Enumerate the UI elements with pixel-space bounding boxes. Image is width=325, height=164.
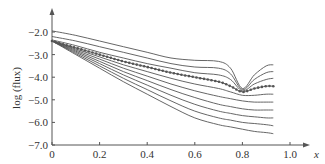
data-marker bbox=[98, 53, 101, 56]
data-marker bbox=[165, 70, 168, 73]
y-tick-label: −3.0 bbox=[28, 49, 48, 61]
data-marker bbox=[109, 57, 112, 60]
x-tick-label: 1.0 bbox=[283, 148, 297, 160]
data-marker bbox=[106, 56, 109, 59]
data-marker bbox=[135, 63, 138, 66]
data-marker bbox=[214, 80, 217, 83]
data-marker bbox=[95, 52, 98, 55]
data-marker bbox=[232, 86, 235, 89]
data-marker bbox=[225, 83, 228, 86]
data-marker bbox=[191, 76, 194, 79]
data-marker bbox=[121, 60, 124, 63]
y-tick-label: −4.0 bbox=[28, 71, 48, 83]
data-marker bbox=[139, 64, 142, 67]
data-marker bbox=[158, 69, 161, 72]
data-marker bbox=[102, 54, 105, 57]
data-marker bbox=[128, 62, 131, 65]
data-marker bbox=[268, 85, 271, 88]
y-tick-label: −2.0 bbox=[28, 26, 48, 38]
data-marker bbox=[161, 70, 164, 73]
data-marker bbox=[264, 85, 267, 88]
data-marker bbox=[210, 79, 213, 82]
data-marker bbox=[147, 66, 150, 69]
data-marker bbox=[235, 88, 238, 91]
y-tick-label: −7.0 bbox=[28, 139, 48, 151]
x-tick-label: 0.6 bbox=[188, 148, 202, 160]
data-marker bbox=[180, 73, 183, 76]
data-marker bbox=[143, 65, 146, 68]
data-marker bbox=[257, 86, 260, 89]
data-marker bbox=[203, 78, 206, 81]
data-marker bbox=[195, 76, 198, 79]
data-marker bbox=[242, 91, 245, 94]
data-marker bbox=[238, 90, 241, 93]
data-marker bbox=[132, 62, 135, 65]
data-marker bbox=[199, 77, 202, 80]
data-marker bbox=[249, 88, 252, 91]
y-ticks: −2.0−3.0−4.0−5.0−6.0−7.0 bbox=[28, 26, 55, 151]
curves-group bbox=[51, 31, 275, 134]
data-marker bbox=[228, 85, 231, 88]
x-axis-arrow-icon bbox=[303, 143, 310, 148]
data-marker bbox=[154, 68, 157, 71]
y-axis-arrow-icon bbox=[50, 8, 55, 15]
data-marker bbox=[246, 90, 249, 93]
x-tick-label: 0.8 bbox=[236, 148, 250, 160]
y-axis-label: log (flux) bbox=[10, 67, 23, 109]
data-marker bbox=[221, 82, 224, 85]
data-marker bbox=[91, 51, 94, 54]
data-marker bbox=[253, 87, 256, 90]
series-curve-3 bbox=[52, 40, 273, 91]
data-marker bbox=[218, 80, 221, 83]
data-marker bbox=[113, 58, 116, 61]
data-marker bbox=[150, 67, 153, 70]
data-marker bbox=[87, 50, 90, 53]
data-marker bbox=[176, 73, 179, 76]
x-axis-label: x bbox=[313, 148, 319, 160]
data-marker bbox=[117, 59, 120, 62]
x-tick-label: 0 bbox=[49, 148, 55, 160]
data-marker bbox=[261, 86, 264, 89]
data-marker bbox=[188, 75, 191, 78]
y-tick-label: −5.0 bbox=[28, 94, 48, 106]
data-marker bbox=[206, 78, 209, 81]
x-tick-label: 0.4 bbox=[140, 148, 154, 160]
data-marker bbox=[184, 74, 187, 77]
x-tick-label: 0.2 bbox=[93, 148, 107, 160]
chart: −2.0−3.0−4.0−5.0−6.0−7.0 00.20.40.60.81.… bbox=[0, 0, 325, 164]
data-marker bbox=[173, 72, 176, 75]
data-marker bbox=[272, 85, 275, 88]
y-tick-label: −6.0 bbox=[28, 116, 48, 128]
data-marker bbox=[124, 61, 127, 64]
data-marker bbox=[169, 71, 172, 74]
